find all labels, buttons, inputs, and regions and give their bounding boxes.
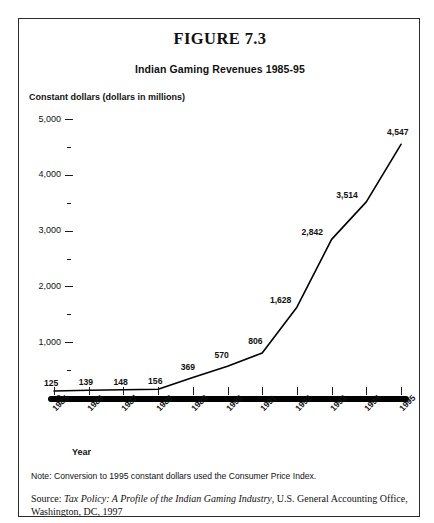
y-axis-minor-tick [67,370,71,371]
x-axis-tick [54,387,55,395]
y-axis-tick-label: 2,000 [19,282,61,291]
data-point-label: 369 [181,362,195,372]
y-axis-major-tick [65,231,73,232]
y-axis-major-tick [65,175,73,176]
y-axis-major-tick [65,342,73,343]
data-point-label: 125 [44,378,58,388]
x-axis-tick [401,387,402,395]
y-axis-minor-tick [67,259,71,260]
data-point-label: 2,842 [302,227,324,237]
x-axis-tick [123,387,124,395]
y-axis-tick-label: 4,000 [19,170,61,179]
x-axis-tick [193,387,194,395]
x-axis-tick [158,387,159,395]
data-point-label: 570 [215,350,229,360]
data-point-label: 139 [79,377,93,387]
x-axis-title: Year [72,447,91,457]
data-point-label: 156 [148,376,162,386]
data-point-label: 1,628 [270,295,292,305]
x-axis-tick [89,387,90,395]
data-point-label: 806 [248,336,262,346]
data-point-label: 4,547 [387,127,409,137]
y-axis-minor-tick [67,147,71,148]
source-prefix: Source: [31,493,64,504]
figure-frame: FIGURE 7.3 Indian Gaming Revenues 1985-9… [18,18,420,517]
source-title-italic: Tax Policy: A Profile of the Indian Gami… [64,493,272,504]
x-axis-tick [332,387,333,395]
y-axis-minor-tick [67,314,71,315]
data-point-label: 148 [113,377,127,387]
data-point-label: 3,514 [336,190,358,200]
source-text: Source: Tax Policy: A Profile of the Ind… [31,493,413,517]
y-axis-tick-label: 1,000 [19,338,61,347]
y-axis-major-tick [65,286,73,287]
revenue-line-chart [19,19,420,517]
x-axis-tick [262,387,263,395]
x-axis-tick [228,387,229,395]
y-axis-tick-label: 5,000 [19,115,61,124]
y-axis-tick-label: 3,000 [19,226,61,235]
plot-area: 01,0002,0003,0004,0005,00019851986198719… [19,19,420,517]
y-axis-minor-tick [67,203,71,204]
x-axis-tick [366,387,367,395]
y-axis-major-tick [65,119,73,120]
x-axis-tick [297,387,298,395]
note-text: Note: Conversion to 1995 constant dollar… [31,471,411,482]
